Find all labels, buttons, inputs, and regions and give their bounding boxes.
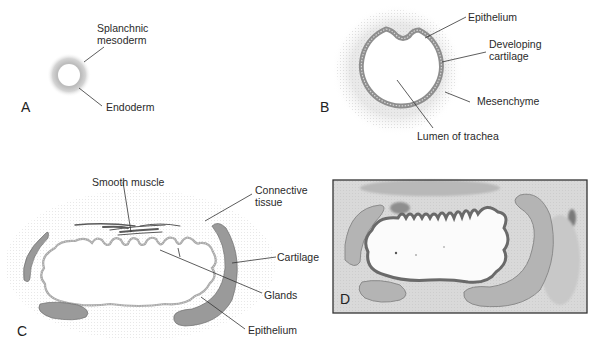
panel-letter-b: B [320,99,329,115]
label-connective-line1: Connective [255,184,308,196]
panel-letter-c: C [17,323,27,339]
leader-line-endoderm [79,88,102,106]
label-epithelium-c: Epithelium [248,324,297,336]
panel-d-histology [333,180,587,313]
label-endoderm: Endoderm [106,101,154,113]
label-developing-cartilage: Developing cartilage [489,38,542,62]
endoderm-lumen [58,64,80,86]
label-splanchnic-line2: mesoderm [97,34,148,46]
label-mesenchyme: Mesenchyme [477,95,539,107]
label-developing-line2: cartilage [489,50,542,62]
label-cartilage: Cartilage [277,251,319,263]
c-lumen-epithelium [41,238,216,306]
label-connective-line2: tissue [255,196,308,208]
panel-c-drawing [5,182,276,340]
label-splanchnic-line1: Splanchnic [97,22,148,34]
label-lumen-of-trachea: Lumen of trachea [417,130,499,142]
leader-line-splanchnic [84,47,104,62]
d-lumen [366,207,508,282]
panel-a-drawing [47,47,104,106]
label-glands: Glands [264,289,297,301]
label-splanchnic-mesoderm: Splanchnic mesoderm [97,22,148,46]
label-smooth-muscle: Smooth muscle [92,176,164,188]
panel-letter-d: D [340,291,350,307]
panel-b-drawing [331,4,486,136]
label-connective-tissue: Connective tissue [255,184,308,208]
label-developing-line1: Developing [489,38,542,50]
label-epithelium-b: Epithelium [468,11,517,23]
panel-letter-a: A [21,99,30,115]
